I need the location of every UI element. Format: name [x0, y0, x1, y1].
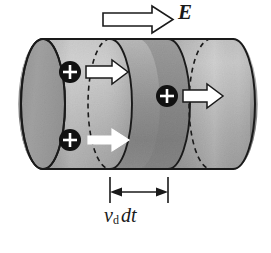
charge-upper-left [59, 61, 81, 83]
field-label-E: E [178, 2, 192, 23]
drift-length-label: vddt [104, 205, 136, 226]
block-arrow-right-icon [103, 6, 173, 33]
drift-label-subscript: d [113, 213, 119, 227]
charge-lower-left [59, 129, 81, 151]
conductor-cylinder [18, 30, 257, 180]
physics-diagram-figure: E vddt [0, 0, 271, 253]
dimension-arrowhead-right [156, 188, 168, 197]
field-arrow-group [103, 6, 173, 33]
drift-length-dimension [110, 177, 168, 203]
drift-label-v: v [104, 204, 113, 226]
dimension-arrowhead-left [110, 188, 122, 197]
drift-label-dt: dt [121, 204, 137, 226]
cylinder-left-cap-texture [22, 40, 64, 168]
charge-right [156, 85, 178, 107]
